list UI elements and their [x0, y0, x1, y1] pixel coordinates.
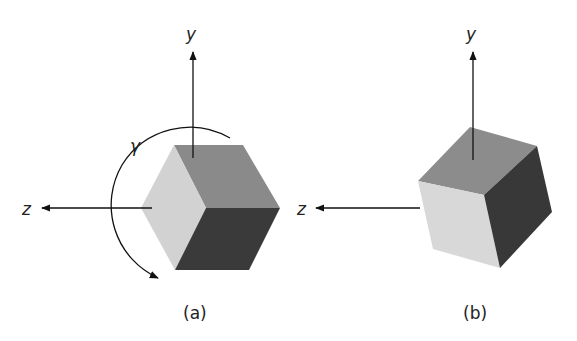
cube-b — [418, 127, 552, 268]
hexagon-cube-a — [141, 145, 280, 270]
z-axis-label-a: z — [21, 199, 32, 219]
rotation-diagram: y z γ (a) y z (b) — [0, 0, 577, 341]
panel-b: y z (b) — [296, 24, 552, 323]
caption-a: (a) — [183, 303, 207, 323]
y-axis-label-a: y — [185, 24, 197, 44]
panel-a: y z γ (a) — [21, 24, 280, 323]
z-axis-label-b: z — [296, 199, 307, 219]
y-axis-label-b: y — [465, 24, 477, 44]
caption-b: (b) — [463, 303, 487, 323]
gamma-label: γ — [130, 136, 141, 156]
